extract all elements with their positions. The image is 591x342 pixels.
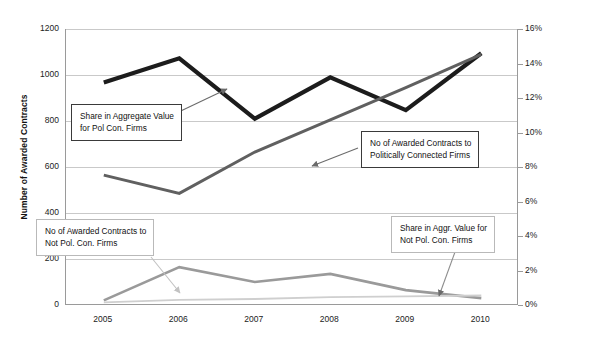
- y-axis-right-tick-label: 2%: [525, 265, 559, 275]
- x-axis-tick-label: 2010: [455, 314, 505, 324]
- y-axis-right-tick-label: 8%: [525, 161, 559, 171]
- x-axis-tick-label: 2008: [304, 314, 354, 324]
- y-axis-left-tick-label: 400: [25, 207, 59, 217]
- annotation-share-pol-con: Share in Aggregate Value for Pol Con. Fi…: [71, 104, 182, 141]
- y-axis-right-tick-label: 0%: [525, 299, 559, 309]
- y-axis-left-tick-label: 1000: [25, 69, 59, 79]
- y-axis-right-tick-label: 10%: [525, 127, 559, 137]
- x-axis-tick-label: 2009: [380, 314, 430, 324]
- y-axis-left-tick-label: 600: [25, 161, 59, 171]
- y-axis-right-tick-label: 12%: [525, 92, 559, 102]
- annotation-num-not-pol-con: No of Awarded Contracts to Not Pol. Con.…: [36, 219, 154, 256]
- annotation-share-not-pol-con: Share in Aggr. Value for Not Pol. Con. F…: [391, 216, 495, 253]
- y-axis-right-tick-label: 4%: [525, 230, 559, 240]
- y-axis-left-tick-label: 1200: [25, 23, 59, 33]
- annotation-line: Share in Aggr. Value for: [400, 222, 487, 234]
- y-axis-right-tick-mark: [518, 305, 523, 306]
- chart-figure: Number of Awarded Contracts Share in Agg…: [0, 0, 591, 342]
- x-axis-tick-label: 2006: [153, 314, 203, 324]
- x-axis-tick-label: 2005: [78, 314, 128, 324]
- series-line: [104, 296, 482, 303]
- annotation-line: No of Awarded Contracts to: [370, 137, 471, 149]
- annotation-line: Not Pol. Con. Firms: [400, 234, 487, 246]
- annotation-line: Politically Connected Firms: [370, 149, 471, 161]
- annotation-line: for Pol Con. Firms: [80, 122, 174, 134]
- annotation-num-pol-con: No of Awarded Contracts to Politically C…: [361, 131, 479, 168]
- y-axis-right-tick-label: 14%: [525, 58, 559, 68]
- y-axis-left-tick-label: 800: [25, 115, 59, 125]
- y-axis-right-tick-label: 6%: [525, 196, 559, 206]
- annotation-line: Not Pol. Con. Firms: [45, 237, 146, 249]
- annotation-line: Share in Aggregate Value: [80, 110, 174, 122]
- y-axis-right-tick-label: 16%: [525, 23, 559, 33]
- x-axis-tick-label: 2007: [229, 314, 279, 324]
- annotation-line: No of Awarded Contracts to: [45, 225, 146, 237]
- y-axis-left-tick-label: 0: [25, 299, 59, 309]
